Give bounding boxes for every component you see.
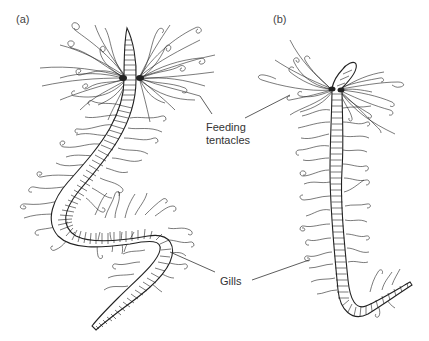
worm-b — [258, 40, 412, 317]
diagram-canvas — [0, 0, 429, 341]
feeding-tentacles-label-line1: Feeding — [206, 121, 250, 134]
gills-label: Gills — [220, 275, 241, 288]
tentacles-leader-b — [245, 95, 290, 118]
worm-b-body — [330, 62, 412, 316]
panel-label-a: (a) — [16, 13, 29, 26]
panel-label-b: (b) — [273, 13, 286, 26]
feeding-tentacles-label-line2: tentacles — [206, 134, 250, 147]
gills-leader-a — [170, 252, 215, 272]
worm-a — [20, 23, 215, 330]
worm-diagram: (a) (b) Feeding tentacles Gills — [0, 0, 429, 341]
tentacles-leader-a — [200, 96, 212, 114]
feeding-tentacles-label: Feeding tentacles — [206, 121, 250, 147]
gills-leader-b — [252, 260, 309, 280]
